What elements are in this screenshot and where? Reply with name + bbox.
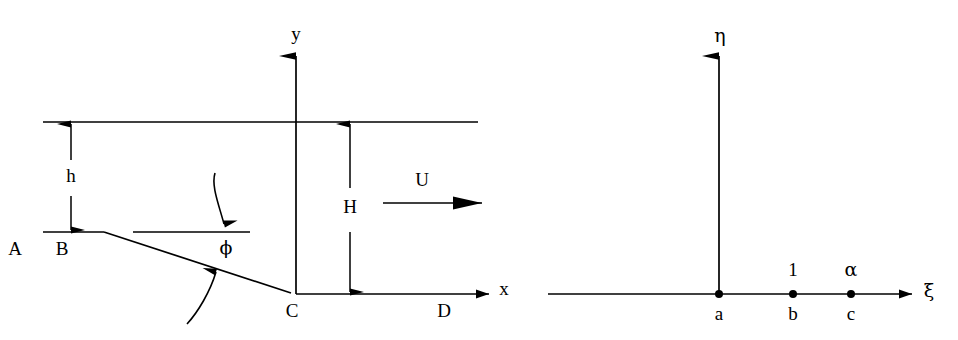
- diagram-svg: A B C D h H ϕ U x y a b c 1: [0, 0, 958, 340]
- label-axis-xi: ξ: [924, 279, 934, 301]
- label-mapped-point-c: c: [847, 303, 855, 324]
- label-mapped-value-b: 1: [788, 259, 798, 280]
- mapped-point-c: [847, 290, 855, 298]
- label-axis-y: y: [291, 23, 301, 44]
- mapped-point-b: [789, 290, 797, 298]
- phi-leader-curve: [214, 173, 224, 224]
- figure-root: A B C D h H ϕ U x y a b c 1: [0, 0, 958, 340]
- label-point-D: D: [437, 300, 451, 321]
- sloping-step-line: [104, 232, 291, 293]
- label-dimension-H: H: [343, 196, 357, 217]
- physical-plane-group: A B C D h H ϕ U x y: [8, 23, 509, 324]
- label-mapped-point-b: b: [788, 303, 798, 324]
- label-dimension-h: h: [66, 165, 76, 186]
- label-mapped-value-c: α: [845, 258, 858, 280]
- label-point-B: B: [56, 238, 69, 259]
- label-velocity-U: U: [415, 169, 429, 190]
- slope-leader-curve: [187, 272, 216, 324]
- mapped-plane-group: a b c 1 α ξ η: [548, 24, 934, 324]
- label-angle-phi: ϕ: [220, 236, 233, 258]
- mapped-point-a: [715, 290, 723, 298]
- label-axis-x: x: [499, 278, 509, 299]
- label-mapped-point-a: a: [715, 303, 724, 324]
- label-point-C: C: [286, 300, 299, 321]
- label-point-A: A: [8, 238, 22, 259]
- label-axis-eta: η: [714, 24, 725, 46]
